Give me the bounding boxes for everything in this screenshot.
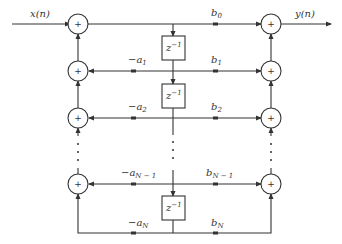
adder-right-1: + [261, 61, 281, 81]
right-ellipsis [270, 143, 272, 161]
coef-a1: −a1 [128, 54, 147, 67]
center-ellipsis [172, 141, 174, 159]
delay-n: z−1 [162, 196, 185, 220]
output-label: y(n) [294, 8, 315, 19]
coef-b0: b0 [211, 7, 222, 20]
row-0: b0 [88, 7, 261, 26]
coef-a2: −a2 [128, 101, 147, 114]
adder-right-2: + [261, 108, 281, 128]
input-signal: x(n) [12, 8, 70, 24]
adder-left-0: + [68, 14, 88, 34]
filter-diagram: x(n) y(n) b0 z−1 z−1 z−1 −a1 b [0, 0, 342, 244]
svg-text:+: + [74, 113, 82, 123]
delay-1: z−1 [162, 36, 185, 60]
coef-a-n-1: −aN − 1 [121, 167, 156, 180]
input-label: x(n) [30, 8, 50, 19]
output-signal: y(n) [281, 8, 331, 24]
svg-text:+: + [74, 66, 82, 76]
adder-left-n-1: + [68, 174, 88, 194]
svg-text:+: + [267, 66, 275, 76]
delay-2: z−1 [162, 84, 185, 108]
adder-right-0: + [261, 14, 281, 34]
coef-b1: b1 [211, 54, 222, 67]
coef-b-n-1: bN − 1 [206, 167, 233, 180]
adder-left-2: + [68, 108, 88, 128]
svg-text:+: + [74, 19, 82, 29]
svg-text:+: + [267, 179, 275, 189]
adder-left-1: + [68, 61, 88, 81]
coef-b-n: bN [211, 217, 224, 230]
row-n-1: −aN − 1 bN − 1 [89, 167, 261, 186]
coef-b2: b2 [211, 101, 222, 114]
svg-text:+: + [267, 19, 275, 29]
svg-text:+: + [267, 113, 275, 123]
coef-a-n: −aN [128, 217, 149, 230]
adder-right-n-1: + [261, 174, 281, 194]
left-ellipsis [77, 143, 79, 161]
svg-text:+: + [74, 179, 82, 189]
